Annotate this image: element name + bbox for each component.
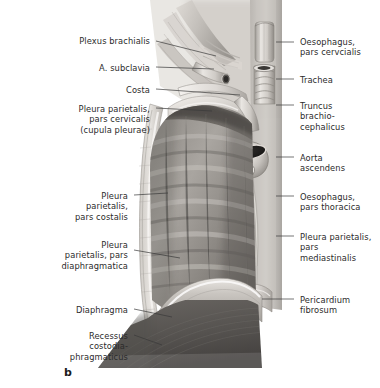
label-pleura-parietalis-pars-cervicalis: Pleura parietalis, pars cervicalis (cupu… bbox=[79, 104, 150, 135]
trachea-structure bbox=[254, 64, 276, 104]
label-truncus-brachiocephalicus: Truncus brachio- cephalicus bbox=[300, 101, 345, 132]
label-pleura-parietalis-pars-diaphragmatica: Pleura parietalis, pars diaphragmatica bbox=[62, 240, 128, 271]
figure-letter: b bbox=[64, 366, 72, 379]
label-a-subclavia: A. subclavia bbox=[99, 63, 150, 73]
anatomy-figure: Plexus brachialisA. subclaviaCostaPleura… bbox=[0, 0, 380, 388]
label-pleura-parietalis-pars-costalis: Pleura parietalis, pars costalis bbox=[75, 191, 128, 222]
oesophagus-cervicalis-structure bbox=[255, 22, 274, 62]
label-oesophagus-pars-cervicalis: Oesophagus, pars cervcialis bbox=[300, 37, 361, 58]
label-pleura-parietalis-pars-mediastinalis: Pleura parietalis, pars mediastinalis bbox=[300, 232, 371, 263]
label-oesophagus-pars-thoracica: Oesophagus, pars thoracica bbox=[300, 192, 360, 213]
label-costa: Costa bbox=[126, 85, 150, 95]
label-diaphragma: Diaphragma bbox=[76, 305, 128, 315]
label-aorta-ascendens: Aorta ascendens bbox=[300, 153, 345, 174]
label-plexus-brachialis: Plexus brachialis bbox=[79, 36, 150, 46]
label-trachea: Trachea bbox=[300, 75, 333, 85]
label-recessus-costodiaphragmaticus: Recessus costodia- phragmaticus bbox=[70, 331, 128, 362]
label-pericardium-fibrosum: Pericardium fibrosum bbox=[300, 295, 350, 316]
